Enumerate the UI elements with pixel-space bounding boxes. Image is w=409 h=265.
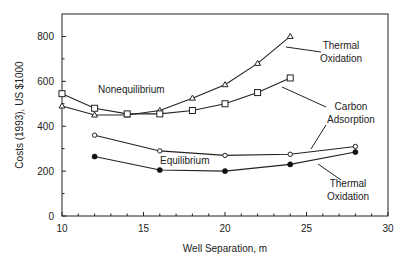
y-tick-label: 0: [48, 211, 54, 222]
x-axis-label: Well Separation, m: [183, 243, 267, 254]
square-marker: [255, 90, 261, 96]
square-marker: [222, 101, 228, 107]
open-circle-marker: [353, 144, 357, 148]
filled-circle-marker: [222, 169, 227, 174]
square-marker: [92, 105, 98, 111]
series-line-2: [95, 135, 356, 155]
annotation-thermal-oxidation-lower-line1: Thermal: [330, 178, 367, 189]
group-label-nonequilibrium: Nonequilibrium: [98, 84, 165, 95]
leader-line-carbon-nonequilibrium: [282, 87, 326, 107]
square-marker: [124, 111, 130, 117]
annotation-thermal-oxidation-lower-line2: Oxidation: [327, 191, 369, 202]
y-axis-label: Costs (1993), US $1000: [14, 61, 25, 169]
filled-circle-marker: [353, 149, 358, 154]
triangle-marker: [222, 82, 228, 87]
square-marker: [157, 111, 163, 117]
line-chart: 10152025300200400600800 Nonequilibrium E…: [0, 0, 409, 265]
x-tick-label: 10: [56, 223, 68, 234]
filled-circle-marker: [92, 154, 97, 159]
group-label-equilibrium: Equilibrium: [160, 155, 209, 166]
x-tick-label: 25: [301, 223, 313, 234]
square-marker: [287, 75, 293, 81]
x-tick-label: 30: [382, 223, 394, 234]
filled-circle-marker: [288, 162, 293, 167]
series-line-0: [62, 36, 290, 115]
open-circle-marker: [158, 149, 162, 153]
y-tick-label: 200: [37, 166, 54, 177]
open-circle-marker: [223, 153, 227, 157]
annotation-carbon-adsorption-line2: Adsorption: [327, 114, 375, 125]
series-layer: [59, 33, 358, 173]
annotation-thermal-oxidation-upper-line2: Oxidation: [320, 53, 362, 64]
open-circle-marker: [92, 133, 96, 137]
leader-line-carbon-equilibrium: [311, 125, 326, 149]
triangle-marker: [287, 33, 293, 38]
leader-line-nonequilibrium-thermal: [286, 47, 321, 52]
y-tick-label: 600: [37, 76, 54, 87]
square-marker: [189, 108, 195, 114]
y-tick-label: 800: [37, 31, 54, 42]
open-circle-marker: [288, 152, 292, 156]
annotation-thermal-oxidation-upper-line1: Thermal: [323, 40, 360, 51]
square-marker: [59, 91, 65, 97]
annotation-carbon-adsorption-line1: Carbon: [335, 101, 368, 112]
y-tick-label: 400: [37, 121, 54, 132]
filled-circle-marker: [157, 167, 162, 172]
x-tick-label: 15: [138, 223, 150, 234]
x-tick-label: 20: [219, 223, 231, 234]
